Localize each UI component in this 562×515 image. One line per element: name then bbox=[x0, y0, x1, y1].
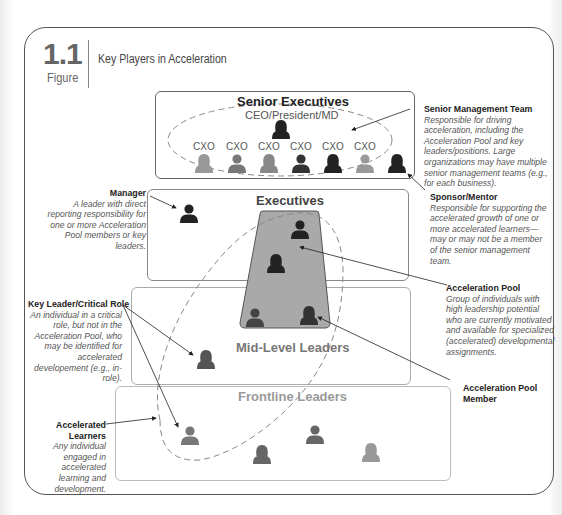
annotation-description: Group of individuals with high leadershi… bbox=[446, 294, 556, 358]
annotation-sponsor-mentor: Sponsor/Mentor Responsible for supportin… bbox=[430, 192, 548, 266]
annotation-title: Manager bbox=[40, 188, 146, 199]
annotation-title: Sponsor/Mentor bbox=[430, 192, 548, 203]
frontline-person-icon bbox=[361, 442, 381, 462]
pool-person-icon bbox=[290, 219, 310, 239]
cxo-person-icon bbox=[323, 153, 343, 173]
annotation-title: Key Leader/Critical Role bbox=[28, 299, 122, 310]
annotation-description: A leader with direct reporting responsib… bbox=[40, 199, 146, 252]
annotation-description: An individual in a critical role, but no… bbox=[28, 310, 122, 384]
cxo-label: CXO bbox=[322, 141, 344, 152]
annotation-title: Acceleration Pool Member bbox=[463, 383, 543, 404]
frontline-person-icon bbox=[252, 444, 272, 464]
annotation-description: Responsible for supporting the accelerat… bbox=[430, 203, 548, 267]
cxo-person-icon bbox=[227, 153, 247, 173]
tier-title-senior-executives: Senior Executives bbox=[237, 94, 349, 109]
annotation-manager: Manager A leader with direct reporting r… bbox=[40, 188, 146, 252]
cxo-label: CXO bbox=[193, 141, 215, 152]
sponsor-mentor-person-icon bbox=[387, 153, 407, 173]
annotation-senior-management-team: Senior Management Team Responsible for d… bbox=[424, 104, 552, 189]
tier-title-executives: Executives bbox=[256, 193, 324, 208]
annotation-description: Any individual engaged in accelerated le… bbox=[30, 441, 106, 494]
pool-person-icon bbox=[245, 307, 265, 327]
manager-person-icon bbox=[179, 203, 199, 223]
cxo-person-icon bbox=[194, 153, 214, 173]
cxo-person-icon bbox=[355, 153, 375, 173]
annotation-acceleration-pool-member: Acceleration Pool Member bbox=[463, 383, 543, 404]
acceleration-pool-member-icon bbox=[299, 305, 319, 325]
annotation-accelerated-learners: Accelerated Learners Any individual enga… bbox=[30, 420, 106, 494]
annotation-title: Senior Management Team bbox=[424, 104, 552, 115]
tier-title-frontline-leaders: Frontline Leaders bbox=[238, 389, 347, 404]
cxo-label: CXO bbox=[226, 141, 248, 152]
ceo-label: CEO/President/MD bbox=[245, 109, 339, 121]
annotation-title: Acceleration Pool bbox=[446, 283, 556, 294]
frontline-person-icon bbox=[305, 424, 325, 444]
pool-person-icon bbox=[266, 253, 286, 273]
annotation-acceleration-pool: Acceleration Pool Group of individuals w… bbox=[446, 283, 556, 357]
cxo-label: CXO bbox=[290, 141, 312, 152]
annotation-title: Accelerated Learners bbox=[30, 420, 106, 441]
cxo-person-icon bbox=[259, 153, 279, 173]
key-leader-person-icon bbox=[196, 349, 216, 369]
tier-title-mid-level-leaders: Mid-Level Leaders bbox=[236, 340, 349, 355]
annotation-description: Responsible for driving acceleration, in… bbox=[424, 115, 552, 189]
frontline-person-icon bbox=[180, 425, 200, 445]
cxo-label: CXO bbox=[258, 141, 280, 152]
ceo-person-icon bbox=[271, 119, 291, 139]
cxo-person-icon bbox=[291, 153, 311, 173]
annotation-key-leader: Key Leader/Critical Role An individual i… bbox=[28, 299, 122, 384]
cxo-label: CXO bbox=[354, 141, 376, 152]
